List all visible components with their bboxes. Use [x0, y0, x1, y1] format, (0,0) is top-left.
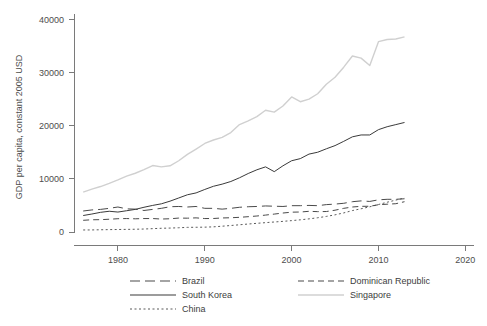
series-line-brazil	[83, 199, 404, 211]
chart-series-group	[83, 37, 404, 230]
x-tick-label: 2020	[455, 255, 475, 265]
chart-container: GDP per capita, constant 2005 USD 010000…	[0, 0, 487, 326]
legend-label-brazil: Brazil	[182, 276, 205, 286]
y-tick-label: 30000	[39, 68, 64, 78]
legend-label-china: China	[182, 304, 206, 314]
chart-legend: BrazilDominican RepublicSouth KoreaSinga…	[130, 276, 431, 314]
x-tick-label: 1990	[195, 255, 215, 265]
y-axis-ticks: 010000200003000040000	[39, 15, 75, 238]
legend-label-south-korea: South Korea	[182, 290, 232, 300]
series-line-china	[83, 198, 404, 230]
x-tick-label: 2010	[368, 255, 388, 265]
y-tick-label: 40000	[39, 15, 64, 25]
line-chart: GDP per capita, constant 2005 USD 010000…	[0, 0, 487, 326]
x-tick-label: 2000	[282, 255, 302, 265]
x-axis-ticks: 19801990200020102020	[108, 246, 475, 266]
y-tick-label: 20000	[39, 121, 64, 131]
legend-label-dominican-republic: Dominican Republic	[350, 276, 431, 286]
legend-label-singapore: Singapore	[350, 290, 391, 300]
series-line-singapore	[83, 37, 404, 192]
series-line-dominican-republic	[83, 202, 404, 221]
y-tick-label: 10000	[39, 174, 64, 184]
x-tick-label: 1980	[108, 255, 128, 265]
y-axis-title: GDP per capita, constant 2005 USD	[14, 54, 24, 199]
y-tick-label: 0	[59, 227, 64, 237]
